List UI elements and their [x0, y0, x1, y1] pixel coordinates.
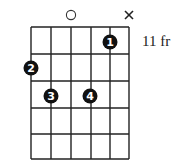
finger-number: 3 [47, 90, 55, 103]
finger-dot-4: 4 [83, 89, 98, 104]
finger-number: 4 [86, 90, 94, 103]
finger-dot-3: 3 [44, 89, 59, 104]
muted-string-icon [125, 11, 133, 19]
finger-dot-2: 2 [24, 61, 39, 76]
finger-dot-1: 1 [103, 35, 118, 50]
open-string-icon [66, 10, 75, 19]
chord-diagram: 1234 [0, 0, 185, 168]
string-markers [66, 10, 133, 19]
finger-number: 2 [27, 62, 35, 75]
finger-number: 1 [106, 36, 114, 49]
fret-position-label: 11 fr [142, 33, 170, 50]
